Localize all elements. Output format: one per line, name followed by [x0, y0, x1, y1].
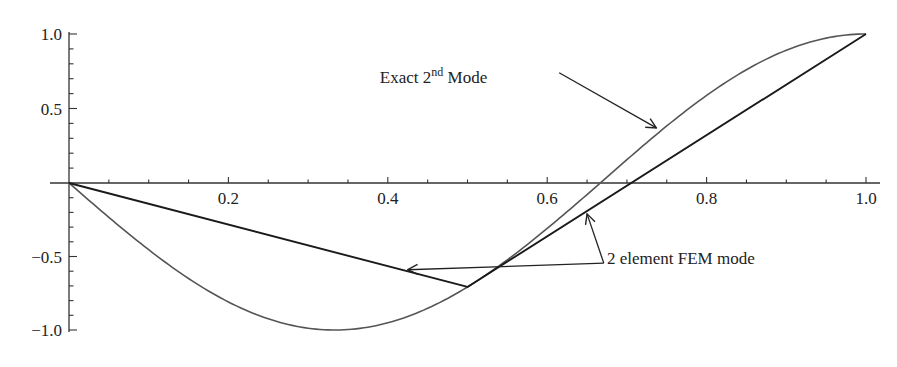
fem-mode-label: 2 element FEM mode	[607, 249, 755, 268]
y-tick-label: −0.5	[31, 248, 62, 267]
x-tick-label: 0.2	[218, 189, 239, 208]
y-tick-label: 0.5	[41, 100, 62, 119]
annotation-arrow	[408, 263, 604, 270]
x-tick-label: 0.4	[377, 189, 399, 208]
exact-mode-label: Exact 2nd Mode	[380, 65, 487, 87]
annotation-arrow	[587, 214, 604, 263]
x-tick-label: 0.6	[537, 189, 558, 208]
x-tick-label: 0.8	[696, 189, 717, 208]
y-tick-label: 1.0	[41, 25, 62, 44]
annotations: Exact 2nd Mode2 element FEM mode	[380, 65, 755, 270]
annotation-arrow	[559, 73, 656, 128]
x-tick-label: 1.0	[855, 189, 876, 208]
y-tick-label: −1.0	[31, 321, 62, 340]
chart: 0.20.40.60.81.01.00.5−0.5−1.0 Exact 2nd …	[0, 0, 897, 367]
